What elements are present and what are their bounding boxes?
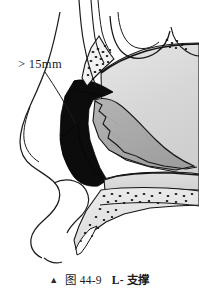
- caption-figure-label: L- 支撑: [112, 271, 150, 287]
- nasal-septum-diagram: [0, 0, 199, 293]
- figure-root: > 15mm ▲ 图 44-9 L- 支撑: [0, 0, 199, 293]
- figure-caption: ▲ 图 44-9 L- 支撑: [0, 271, 199, 287]
- caption-figure-number: 44-9: [80, 274, 102, 286]
- caption-fig-word: 图: [65, 271, 76, 287]
- triangle-marker-icon: ▲: [49, 275, 58, 285]
- strut-width-callout-label: > 15mm: [18, 57, 62, 72]
